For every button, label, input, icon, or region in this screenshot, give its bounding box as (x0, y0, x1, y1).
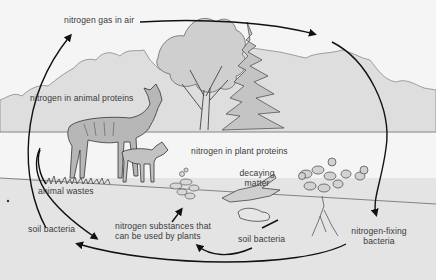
nitrogen-cycle-diagram: nitrogen gas in air nitrogen in animal p… (0, 0, 436, 280)
label-substances-line1: nitrogen substances that (115, 221, 211, 231)
label-substances-line2: can be used by plants (115, 231, 211, 241)
label-nitrogen-gas-in-air: nitrogen gas in air (64, 15, 134, 25)
label-fixing-line1: nitrogen-fixing (342, 226, 416, 236)
dot-marker (7, 200, 9, 202)
label-nitrogen-fixing-bacteria: nitrogen-fixing bacteria (342, 226, 416, 246)
label-soil-bacteria-left: soil bacteria (28, 224, 75, 234)
label-fixing-line2: bacteria (342, 236, 416, 246)
label-decaying-line2: matter (229, 178, 285, 188)
label-decaying-line1: decaying (229, 168, 285, 178)
label-nitrogen-substances: nitrogen substances that can be used by … (115, 221, 211, 241)
label-nitrogen-in-plant-proteins: nitrogen in plant proteins (191, 146, 288, 156)
label-soil-bacteria-center: soil bacteria (238, 234, 285, 244)
label-nitrogen-in-animal-proteins: nitrogen in animal proteins (30, 93, 134, 103)
label-decaying-matter: decaying matter (229, 168, 285, 188)
label-animal-wastes: animal wastes (38, 186, 94, 196)
